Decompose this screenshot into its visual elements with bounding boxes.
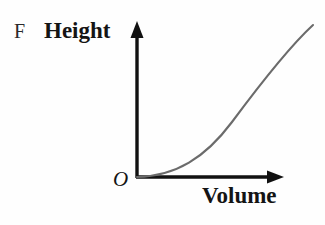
x-axis-arrowhead	[267, 171, 284, 184]
y-axis-arrowhead	[131, 21, 144, 38]
data-curve	[137, 25, 313, 177]
figure-canvas: F Height Volume O	[0, 0, 325, 225]
x-axis-label: Volume	[202, 184, 277, 207]
y-axis-label: Height	[44, 19, 110, 42]
figure-number-label: F	[14, 21, 25, 41]
origin-label: O	[113, 169, 128, 190]
